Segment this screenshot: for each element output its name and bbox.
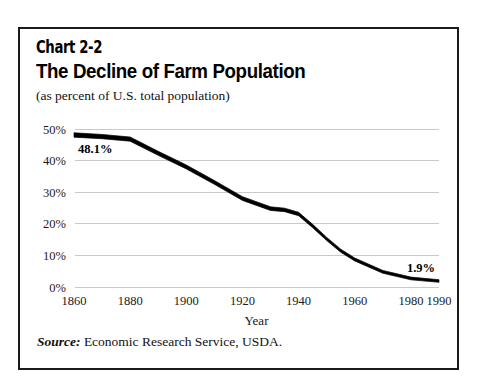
plot-area: 0%10%20%30%40%50% 1860188019001920194019… xyxy=(20,29,457,372)
gridlines xyxy=(75,129,439,287)
svg-text:48.1%: 48.1% xyxy=(78,142,112,156)
x-axis-title: Year xyxy=(245,313,270,328)
svg-text:1990: 1990 xyxy=(427,294,452,308)
chart-card: Chart 2-2 The Decline of Farm Population… xyxy=(18,27,459,370)
svg-text:1960: 1960 xyxy=(342,294,367,308)
svg-text:0%: 0% xyxy=(49,281,66,295)
svg-text:20%: 20% xyxy=(43,217,66,231)
svg-text:50%: 50% xyxy=(43,123,66,137)
svg-text:1920: 1920 xyxy=(230,294,255,308)
source-label: Source: xyxy=(37,334,81,349)
line-chart-svg: 0%10%20%30%40%50% 1860188019001920194019… xyxy=(20,29,457,329)
data-series-farm-population xyxy=(74,133,439,282)
svg-text:1880: 1880 xyxy=(118,294,143,308)
svg-text:1980: 1980 xyxy=(398,294,423,308)
x-axis-tick-labels: 18601880190019201940196019801990 xyxy=(62,294,452,308)
source-line: Source: Economic Research Service, USDA. xyxy=(37,334,282,350)
svg-text:30%: 30% xyxy=(43,186,66,200)
svg-text:10%: 10% xyxy=(43,249,66,263)
svg-text:40%: 40% xyxy=(43,154,66,168)
svg-text:1940: 1940 xyxy=(286,294,311,308)
svg-text:1860: 1860 xyxy=(62,294,87,308)
source-text: Economic Research Service, USDA. xyxy=(81,334,283,349)
y-axis-tick-labels: 0%10%20%30%40%50% xyxy=(43,123,66,295)
svg-text:1.9%: 1.9% xyxy=(407,261,435,275)
svg-text:1900: 1900 xyxy=(174,294,199,308)
